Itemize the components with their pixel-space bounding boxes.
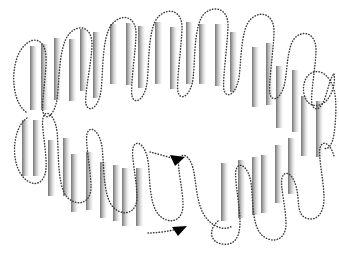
lower-right-serpentine-path: [212, 143, 334, 244]
strand-bars-group: [22, 22, 323, 226]
strand-bar: [316, 101, 323, 157]
strand-bar: [170, 27, 177, 89]
strand-bar: [126, 23, 133, 85]
strand-bar: [252, 47, 259, 107]
strand-bar: [80, 29, 87, 91]
arrow-2-tail: [148, 229, 178, 233]
strand-bar: [261, 155, 268, 213]
arrowhead-lower: [172, 226, 187, 236]
strand-bar: [122, 168, 129, 226]
strand-bar: [113, 165, 120, 221]
topology-diagram-svg: [0, 0, 339, 257]
strand-bar: [54, 38, 61, 100]
strand-bar: [155, 22, 162, 84]
strand-bar: [230, 32, 237, 92]
strand-bar: [238, 160, 245, 218]
strand-bar: [30, 46, 37, 110]
strand-bar: [110, 24, 117, 84]
strand-bar: [215, 24, 222, 86]
strand-bar: [138, 26, 145, 88]
strand-bar: [275, 145, 282, 203]
diagram-canvas: [0, 0, 339, 257]
strand-bar: [186, 22, 193, 84]
strand-bar: [22, 120, 29, 176]
arrowhead-upper: [170, 155, 185, 166]
strand-bar: [93, 32, 100, 98]
strand-bar: [292, 70, 299, 132]
strand-bar: [199, 24, 206, 84]
strand-bar: [48, 140, 55, 196]
strand-bar: [33, 120, 40, 176]
strand-bar: [69, 39, 76, 101]
strand-bar: [221, 163, 228, 221]
strand-bar: [71, 154, 78, 212]
strand-bar: [86, 152, 93, 210]
strand-bar: [266, 43, 273, 105]
arrowheads-group: [170, 155, 187, 236]
strand-bar: [63, 138, 70, 196]
strand-bar: [301, 96, 308, 156]
strand-bar: [288, 138, 295, 194]
